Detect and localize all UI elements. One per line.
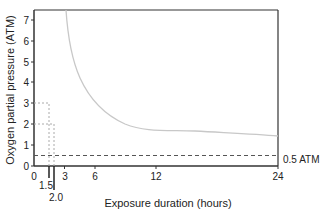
svg-text:12: 12 xyxy=(150,171,162,182)
svg-text:3: 3 xyxy=(62,171,68,182)
svg-text:3: 3 xyxy=(23,98,29,109)
x-axis-title: Exposure duration (hours) xyxy=(104,197,231,209)
tolerance-curve xyxy=(66,10,278,136)
svg-text:0: 0 xyxy=(31,171,37,182)
y-tick-labels: 0 1 2 3 4 5 6 7 xyxy=(23,15,29,172)
chart: 0 1 2 3 4 5 6 7 0 3 6 12 24 1.5 2.0 0.5 … xyxy=(0,0,326,216)
svg-text:5: 5 xyxy=(23,57,29,68)
svg-text:0: 0 xyxy=(23,161,29,172)
guide-lines xyxy=(34,103,54,166)
svg-text:24: 24 xyxy=(272,171,284,182)
svg-text:1: 1 xyxy=(23,140,29,151)
reference-label: 0.5 ATM xyxy=(283,154,320,165)
svg-text:6: 6 xyxy=(92,171,98,182)
svg-text:4: 4 xyxy=(23,77,29,88)
svg-text:2.0: 2.0 xyxy=(49,192,63,203)
y-axis-title: Oxygen partial pressure (ATM) xyxy=(4,15,16,165)
svg-text:7: 7 xyxy=(23,15,29,26)
svg-text:1.5: 1.5 xyxy=(39,180,53,191)
svg-text:6: 6 xyxy=(23,36,29,47)
svg-text:2: 2 xyxy=(23,119,29,130)
